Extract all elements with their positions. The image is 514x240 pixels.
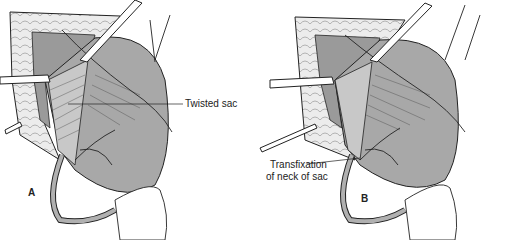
panel-label-a: A — [28, 187, 35, 198]
surgical-illustration — [0, 0, 514, 240]
panel-a-drawing — [0, 0, 183, 240]
callout-transfixation-line2: of neck of sac — [266, 171, 328, 182]
callout-transfixation-line1: Transfixation — [270, 159, 327, 170]
callout-twisted-sac: Twisted sac — [185, 98, 237, 109]
panel-label-b: B — [361, 193, 368, 204]
panel-b-drawing — [260, 3, 480, 240]
